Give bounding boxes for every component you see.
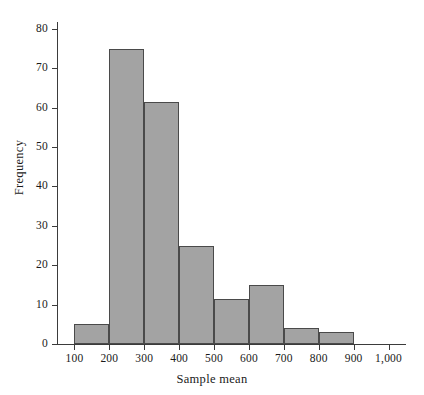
- y-tick-mark: [52, 68, 58, 69]
- x-tick-mark: [214, 345, 215, 350]
- x-tick-mark: [74, 345, 75, 350]
- y-tick-label: 70: [18, 62, 48, 74]
- y-tick-mark: [52, 305, 58, 306]
- histogram-figure: Frequency 01020304050607080 100200300400…: [0, 0, 424, 395]
- histogram-bar: [319, 332, 354, 344]
- x-tick-mark: [249, 345, 250, 350]
- x-tick-mark: [354, 345, 355, 350]
- y-axis-title: Frequency: [12, 108, 27, 228]
- y-tick-mark: [52, 186, 58, 187]
- y-tick-label: 80: [18, 23, 48, 35]
- x-axis-title: Sample mean: [0, 372, 424, 387]
- y-tick-label: 30: [18, 220, 48, 232]
- y-axis-line: [57, 22, 58, 345]
- y-tick-mark: [52, 147, 58, 148]
- x-tick-mark: [389, 345, 390, 350]
- x-tick-mark: [179, 345, 180, 350]
- histogram-bar: [214, 299, 249, 344]
- y-tick-label: 40: [18, 180, 48, 192]
- x-tick-mark: [144, 345, 145, 350]
- histogram-bar: [284, 328, 319, 344]
- histogram-bar: [179, 246, 214, 345]
- x-tick-label: 1,000: [366, 352, 412, 364]
- y-tick-mark: [52, 344, 58, 345]
- y-tick-mark: [52, 226, 58, 227]
- x-tick-mark: [284, 345, 285, 350]
- histogram-bar: [144, 102, 179, 344]
- y-tick-label: 10: [18, 299, 48, 311]
- histogram-bar: [74, 324, 109, 344]
- y-tick-mark: [52, 108, 58, 109]
- x-tick-mark: [109, 345, 110, 350]
- y-tick-mark: [52, 29, 58, 30]
- y-tick-label: 0: [18, 338, 48, 350]
- x-tick-mark: [319, 345, 320, 350]
- histogram-bar: [249, 285, 284, 344]
- histogram-bar: [109, 49, 144, 345]
- y-tick-label: 20: [18, 259, 48, 271]
- y-tick-label: 50: [18, 141, 48, 153]
- y-tick-label: 60: [18, 102, 48, 114]
- y-tick-mark: [52, 265, 58, 266]
